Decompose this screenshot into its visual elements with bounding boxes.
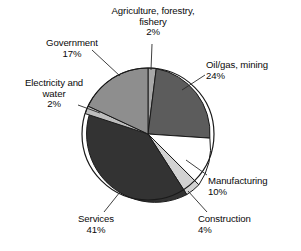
pie-label-construction: Construction 4%: [198, 214, 290, 235]
pie-label-manufacturing: Manufacturing 10%: [208, 176, 300, 197]
pie-label-construction-value: 4%: [198, 225, 290, 236]
leader-line-agriculture: [151, 44, 152, 70]
leader-line-services: [104, 192, 120, 212]
pie-label-services: Services 41%: [56, 214, 136, 235]
leader-line-construction: [188, 191, 207, 212]
pie-label-oilgas: Oil/gas, mining 24%: [206, 60, 298, 81]
pie-label-agriculture-value: 2%: [93, 27, 213, 38]
pie-label-electricity: Electricity and water 2%: [6, 78, 102, 110]
pie-slice-oilgas[interactable]: [148, 69, 210, 139]
pie-label-agriculture: Agriculture, forestry, fishery 2%: [93, 6, 213, 38]
pie-label-government-value: 17%: [22, 49, 122, 60]
pie-slices: [85, 68, 210, 202]
pie-label-electricity-value: 2%: [6, 99, 102, 110]
pie-label-government: Government 17%: [22, 38, 122, 59]
pie-label-services-value: 41%: [56, 225, 136, 236]
pie-label-oilgas-value: 24%: [206, 71, 298, 82]
pie-label-manufacturing-value: 10%: [208, 187, 300, 198]
pie-chart: Agriculture, forestry, fishery 2% Govern…: [0, 0, 301, 251]
